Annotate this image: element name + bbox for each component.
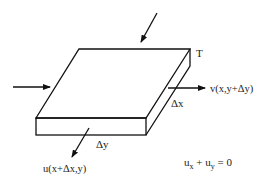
bottom-flow-label: u(x+Δx,y) (43, 163, 87, 175)
plate (36, 49, 190, 135)
plate-diagram: T v(x,y+Δy) Δx Δy u(x+Δx,y) ux + uy = 0 (0, 0, 269, 184)
plate-right-face (146, 49, 190, 135)
continuity-equation: ux + uy = 0 (184, 156, 232, 171)
dx-label: Δx (171, 97, 184, 109)
corner-label-t: T (196, 47, 203, 59)
plate-top-face (36, 49, 190, 118)
top-inflow-arrow (141, 13, 157, 42)
right-flow-label: v(x,y+Δy) (210, 83, 254, 95)
bottom-outflow-arrow (72, 128, 89, 157)
dy-label: Δy (96, 138, 109, 150)
plate-front-face (36, 118, 146, 135)
